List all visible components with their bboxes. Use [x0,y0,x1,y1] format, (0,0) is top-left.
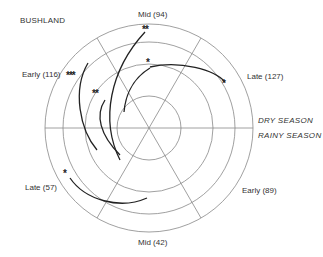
sector-label-early-rainy: Early (89) [242,186,277,195]
significance-marker: * [222,79,225,89]
significance-marker: * [146,58,149,68]
sector-label-mid-dry: Mid (94) [138,10,167,19]
significance-marker: ** [92,89,98,99]
sector-label-late-dry: Late (127) [247,72,283,81]
sector-label-late-rainy: Late (57) [25,183,57,192]
dry-season-label: DRY SEASON [258,116,313,125]
sector-label-mid-rainy: Mid (42) [138,238,167,247]
diagram-title: BUSHLAND [20,16,65,25]
rainy-season-label: RAINY SEASON [258,131,321,140]
significance-marker: *** [66,71,75,81]
circular-diagram [0,0,323,257]
significance-marker: ** [142,25,148,35]
significance-marker: * [63,169,66,179]
sector-label-early-dry: Early (116) [22,70,61,79]
